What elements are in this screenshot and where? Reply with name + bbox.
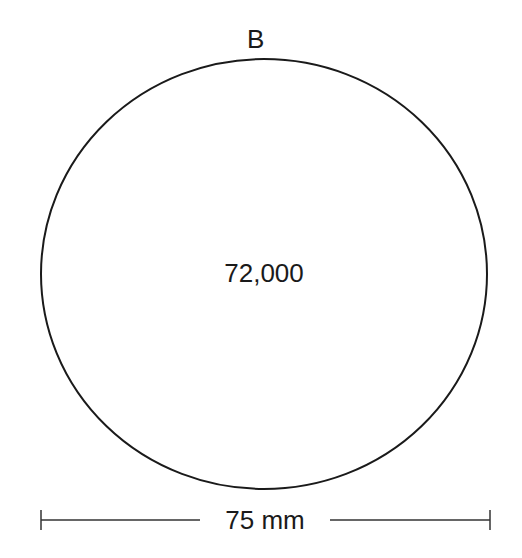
center-value: 72,000 — [0, 258, 522, 288]
top-label: B — [247, 26, 264, 52]
dimension-label: 75 mm — [200, 505, 330, 535]
